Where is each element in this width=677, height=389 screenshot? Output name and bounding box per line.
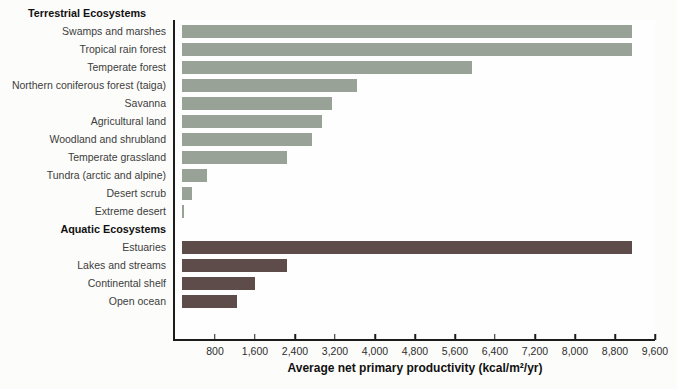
chart-rows: Terrestrial EcosystemsSwamps and marshes… [0,4,677,310]
bar-track [182,133,662,146]
bar-row: Northern coniferous forest (taiga) [0,76,677,94]
x-tick-label: 8,800 [602,345,628,357]
group-header-row: Aquatic Ecosystems [0,220,677,238]
bar-row: Woodland and shrubland [0,130,677,148]
bar [182,241,632,254]
bar [182,151,287,164]
bar [182,169,207,182]
category-label: Temperate grassland [0,151,173,163]
bar-row: Temperate forest [0,58,677,76]
bar [182,133,312,146]
x-tick-label: 8,000 [562,345,588,357]
bar-row: Open ocean [0,292,677,310]
bar-row: Continental shelf [0,274,677,292]
bar [182,277,255,290]
bar-track [182,169,662,182]
bar-row: Temperate grassland [0,148,677,166]
bar [182,25,632,38]
bar-row: Estuaries [0,238,677,256]
category-label: Lakes and streams [0,259,173,271]
bar-track [182,187,662,200]
x-tick-label: 3,200 [322,345,348,357]
bar-row: Tropical rain forest [0,40,677,58]
group-header-label: Aquatic Ecosystems [0,223,173,235]
category-label: Northern coniferous forest (taiga) [0,79,173,91]
bar [182,43,632,56]
bar [182,259,287,272]
bar [182,61,472,74]
x-tick-label: 6,400 [482,345,508,357]
category-label: Continental shelf [0,277,173,289]
productivity-bar-chart: Terrestrial EcosystemsSwamps and marshes… [0,0,677,389]
x-tick-label: 4,800 [402,345,428,357]
bar-row: Tundra (arctic and alpine) [0,166,677,184]
x-tick-label: 800 [206,345,224,357]
category-label: Savanna [0,97,173,109]
category-label: Open ocean [0,295,173,307]
x-tick-label: 1,600 [242,345,268,357]
x-tick-label: 4,000 [362,345,388,357]
category-label: Desert scrub [0,187,173,199]
bar-track [182,25,662,38]
bar-track [182,115,662,128]
x-axis-title: Average net primary productivity (kcal/m… [175,361,655,375]
bar [182,97,332,110]
group-header-label: Terrestrial Ecosystems [0,7,194,19]
bar [182,79,357,92]
bar-row: Savanna [0,94,677,112]
bar [182,115,322,128]
bar-row: Agricultural land [0,112,677,130]
category-label: Tundra (arctic and alpine) [0,169,173,181]
category-label: Estuaries [0,241,173,253]
bar-row: Desert scrub [0,184,677,202]
category-label: Tropical rain forest [0,43,173,55]
category-label: Temperate forest [0,61,173,73]
bar-track [182,241,662,254]
bar-row: Extreme desert [0,202,677,220]
x-tick-label: 2,400 [282,345,308,357]
category-label: Woodland and shrubland [0,133,173,145]
bar [182,187,192,200]
bar-track [182,97,662,110]
bar-track [182,205,662,218]
bar-track [182,277,662,290]
category-label: Swamps and marshes [0,25,173,37]
x-tick-label: 7,200 [522,345,548,357]
bar-row: Swamps and marshes [0,22,677,40]
category-label: Agricultural land [0,115,173,127]
bar-row: Lakes and streams [0,256,677,274]
bar-track [182,151,662,164]
bar [182,205,184,218]
bar-track [182,79,662,92]
x-tick-label: 9,600 [642,345,668,357]
category-label: Extreme desert [0,205,173,217]
bar-track [182,43,662,56]
bar [182,295,237,308]
bar-track [182,295,662,308]
x-tick-label: 5,600 [442,345,468,357]
group-header-row: Terrestrial Ecosystems [0,4,677,22]
bar-track [182,61,662,74]
bar-track [182,259,662,272]
